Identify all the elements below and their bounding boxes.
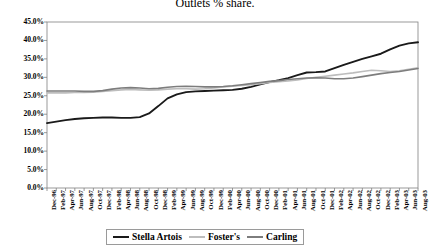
x-tick-label: Jun-02 xyxy=(356,190,364,210)
x-tick-label: Aug-02 xyxy=(365,190,373,211)
legend-item[interactable]: Foster's xyxy=(189,232,240,242)
x-tick-label: Feb-99 xyxy=(170,190,178,210)
x-tick-label: Aug-01 xyxy=(309,190,317,211)
x-tick-label: Feb-98 xyxy=(115,190,123,210)
x-tick-label: Aug-98 xyxy=(142,190,150,211)
x-tick-label: Aug-99 xyxy=(198,190,206,211)
chart-container: Outlets % share. 0.0%5.0%10.0%15.0%20.0%… xyxy=(0,0,430,249)
x-tick-label: Oct-97 xyxy=(96,190,104,210)
x-tick-label: Dec-98 xyxy=(161,190,169,210)
x-tick-label: Aug-00 xyxy=(254,190,262,211)
x-tick-label: Jun-99 xyxy=(189,190,197,210)
x-tick-label: Apr-00 xyxy=(235,190,243,211)
x-tick-label: Dec-99 xyxy=(217,190,225,210)
legend-item[interactable]: Stella Artois xyxy=(113,232,182,242)
x-tick-label: Dec-96 xyxy=(50,190,58,210)
legend-swatch-icon xyxy=(189,236,205,238)
x-tick-label: Oct-99 xyxy=(207,190,215,210)
x-axis: Dec-96Feb-97Apr-97Jun-97Aug-97Oct-97Dec-… xyxy=(0,0,430,249)
x-tick-label: Dec-00 xyxy=(272,190,280,210)
x-tick-label: Feb-00 xyxy=(226,190,234,210)
legend-swatch-icon xyxy=(113,236,129,238)
x-tick-label: Apr-01 xyxy=(291,190,299,211)
x-tick-label: Oct-01 xyxy=(319,190,327,210)
x-tick-label: Jun-97 xyxy=(77,190,85,210)
x-tick-label: Jun-01 xyxy=(300,190,308,210)
x-tick-label: Jun-03 xyxy=(411,190,419,210)
x-tick-label: Oct-02 xyxy=(374,190,382,210)
legend-label: Carling xyxy=(266,232,297,242)
chart-legend: Stella ArtoisFoster'sCarling xyxy=(106,229,304,245)
x-tick-label: Aug-03 xyxy=(421,190,429,211)
x-tick-label: Apr-99 xyxy=(179,190,187,211)
x-tick-label: Jun-00 xyxy=(244,190,252,210)
x-tick-label: Feb-02 xyxy=(337,190,345,210)
x-tick-label: Oct-98 xyxy=(152,190,160,210)
x-tick-label: Apr-02 xyxy=(346,190,354,211)
x-tick-label: Apr-98 xyxy=(124,190,132,211)
x-tick-label: Apr-97 xyxy=(68,190,76,211)
x-tick-label: Feb-01 xyxy=(281,190,289,210)
x-tick-label: Oct-00 xyxy=(263,190,271,210)
x-tick-label: Dec-01 xyxy=(328,190,336,210)
legend-swatch-icon xyxy=(247,236,263,238)
legend-label: Stella Artois xyxy=(132,232,182,242)
legend-item[interactable]: Carling xyxy=(247,232,297,242)
x-tick-label: Jun-98 xyxy=(133,190,141,210)
x-tick-label: Apr-03 xyxy=(402,190,410,211)
x-tick-label: Aug-97 xyxy=(87,190,95,211)
x-tick-label: Dec-02 xyxy=(384,190,392,210)
x-tick-label: Feb-97 xyxy=(59,190,67,210)
x-tick-label: Dec-97 xyxy=(105,190,113,210)
legend-label: Foster's xyxy=(208,232,240,242)
x-tick-label: Feb-03 xyxy=(393,190,401,210)
